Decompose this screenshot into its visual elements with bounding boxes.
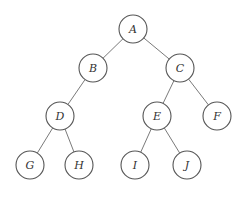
- node-label: J: [183, 159, 190, 172]
- binary-tree-diagram: ABCDEFGHIJ: [0, 0, 248, 197]
- tree-nodes: ABCDEFGHIJ: [16, 15, 231, 179]
- edge-e-j: [164, 128, 179, 153]
- edge-c-f: [189, 79, 209, 105]
- node-label: G: [26, 159, 35, 172]
- edge-a-c: [144, 38, 169, 59]
- node-label: H: [73, 159, 84, 172]
- tree-node-f: F: [203, 102, 231, 130]
- tree-node-b: B: [79, 54, 107, 82]
- tree-node-d: D: [46, 102, 74, 130]
- tree-node-j: J: [173, 151, 201, 179]
- tree-node-a: A: [119, 15, 147, 43]
- node-label: A: [128, 23, 137, 36]
- node-label: C: [176, 62, 185, 75]
- edge-e-i: [141, 129, 152, 152]
- tree-node-i: I: [121, 151, 149, 179]
- edge-a-b: [103, 39, 123, 58]
- node-label: D: [55, 110, 65, 123]
- tree-node-e: E: [143, 102, 171, 130]
- node-label: I: [132, 159, 138, 172]
- edge-b-d: [68, 80, 85, 105]
- edge-d-g: [37, 128, 52, 153]
- tree-node-c: C: [166, 54, 194, 82]
- node-label: B: [88, 62, 97, 75]
- node-label: F: [212, 110, 221, 123]
- edge-d-h: [65, 129, 74, 152]
- node-label: E: [152, 110, 161, 123]
- tree-node-g: G: [16, 151, 44, 179]
- edge-c-e: [163, 81, 174, 104]
- tree-node-h: H: [65, 151, 93, 179]
